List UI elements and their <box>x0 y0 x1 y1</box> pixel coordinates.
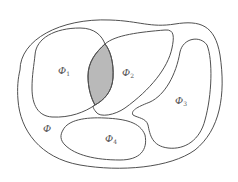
label-phi4: Φ4 <box>105 133 117 145</box>
label-phi1: Φ1 <box>58 65 70 77</box>
region-outer-phi <box>18 20 223 168</box>
label-phi3: Φ3 <box>175 95 187 107</box>
set-diagram: Φ1 Φ2 Φ3 Φ4 Φ <box>0 0 238 182</box>
label-phi2: Φ2 <box>122 67 134 79</box>
intersection-phi1-phi2 <box>88 44 113 105</box>
label-outer-phi: Φ <box>43 123 51 134</box>
region-phi3 <box>132 39 210 148</box>
region-phi4 <box>61 118 146 160</box>
